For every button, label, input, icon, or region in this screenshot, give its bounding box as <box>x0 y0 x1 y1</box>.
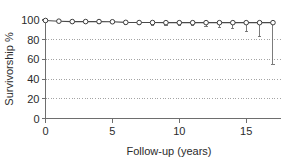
axes <box>46 20 282 119</box>
y-tick-label-60: 60 <box>27 53 39 65</box>
data-point-12 <box>204 20 209 25</box>
data-point-13 <box>217 20 222 25</box>
x-tick-label-0: 0 <box>42 125 48 137</box>
data-point-2 <box>70 19 75 24</box>
x-tick-label-15: 15 <box>240 125 252 137</box>
y-tick-label-20: 20 <box>27 93 39 105</box>
data-point-6 <box>123 20 128 25</box>
data-point-17 <box>271 20 276 25</box>
x-axis-ticks: 051015 <box>42 119 252 137</box>
data-point-3 <box>83 19 88 24</box>
x-tick-label-5: 5 <box>109 125 115 137</box>
error-bars <box>57 21 274 64</box>
y-tick-label-100: 100 <box>21 14 39 26</box>
y-tick-label-80: 80 <box>27 34 39 46</box>
data-point-5 <box>110 19 115 24</box>
data-point-15 <box>244 20 249 25</box>
data-point-4 <box>97 19 102 24</box>
data-point-16 <box>257 20 262 25</box>
y-tick-label-40: 40 <box>27 73 39 85</box>
y-tick-label-0: 0 <box>33 113 39 125</box>
data-point-1 <box>57 19 62 24</box>
y-axis-ticks: 020406080100 <box>21 14 45 125</box>
survivorship-line <box>46 20 273 22</box>
data-point-0 <box>43 18 48 23</box>
chart-canvas: 020406080100 051015 Follow-up (years) Su… <box>0 0 306 161</box>
data-point-9 <box>164 20 169 25</box>
data-point-11 <box>190 20 195 25</box>
gridlines <box>46 40 282 99</box>
data-point-14 <box>231 20 236 25</box>
x-tick-label-10: 10 <box>173 125 185 137</box>
y-axis-title: Survivorship % <box>3 32 15 106</box>
survivorship-chart: 020406080100 051015 Follow-up (years) Su… <box>0 0 306 161</box>
data-point-10 <box>177 20 182 25</box>
data-point-7 <box>137 20 142 25</box>
data-point-8 <box>150 20 155 25</box>
x-axis-title: Follow-up (years) <box>127 145 212 157</box>
